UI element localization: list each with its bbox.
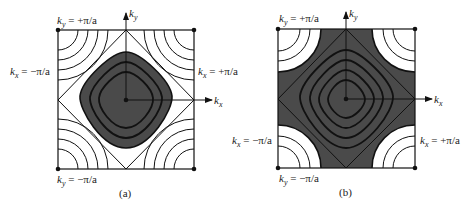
caption-a: (a): [119, 187, 132, 200]
label-axis-ky: ky: [349, 7, 358, 22]
label-ky-bottom: ky = −π/a: [57, 173, 97, 188]
label-kx-left: kx = −π/a: [10, 65, 50, 80]
label-axis-kx: kx: [434, 93, 443, 108]
label-axis-ky: ky: [129, 7, 138, 22]
label-kx-left: kx = −π/a: [232, 134, 272, 149]
panel-b: ky = +π/a ky kx kx = −π/a kx = +π/a ky =…: [232, 0, 460, 209]
brillouin-zone-figure: ky = +π/a ky kx = −π/a kx = +π/a kx ky =…: [0, 0, 470, 209]
label-ky-bottom: ky = −π/a: [279, 172, 319, 187]
panel-a: ky = +π/a ky kx = −π/a kx = +π/a kx ky =…: [8, 0, 244, 209]
label-ky-top: ky = +π/a: [57, 14, 97, 29]
label-ky-top: ky = +π/a: [279, 12, 319, 27]
label-kx-right: kx = +π/a: [198, 65, 238, 80]
label-kx-right: kx = +π/a: [420, 134, 460, 149]
caption-b: (b): [339, 186, 352, 199]
label-axis-kx: kx: [214, 94, 223, 109]
